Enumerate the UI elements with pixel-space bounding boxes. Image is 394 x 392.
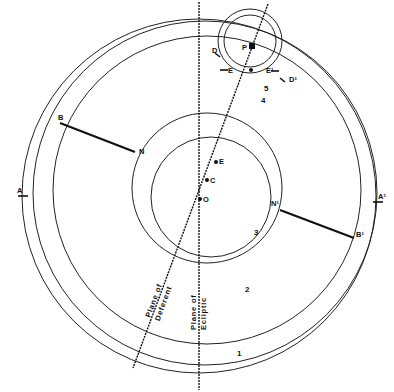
label-p: P — [242, 43, 247, 52]
label-o: O — [203, 195, 209, 204]
point-e-dot — [214, 160, 218, 164]
svg-text:Plane of: Plane of — [189, 294, 198, 330]
n-prime-b-prime-bar — [280, 210, 354, 238]
bn-bar — [60, 123, 135, 152]
region-4: 4 — [261, 96, 266, 105]
epicycle-inner-circle — [224, 15, 276, 67]
label-d: D — [212, 46, 218, 55]
planet-p-marker — [249, 43, 255, 49]
label-c: C — [210, 176, 216, 185]
region-3: 3 — [254, 228, 259, 237]
eccentric-circle — [151, 137, 271, 257]
epicycle-center-dot — [249, 68, 253, 72]
point-c-dot — [205, 178, 209, 182]
label-epicycle-e-prime: E¹ — [266, 66, 274, 75]
inner-sphere-circle — [132, 113, 282, 263]
label-epicycle-e: E — [228, 66, 233, 75]
region-1: 1 — [237, 349, 242, 358]
point-o-dot — [198, 197, 202, 201]
plane-of-deferent-label: Plane of Deferent — [143, 281, 173, 322]
label-b: B — [58, 113, 64, 122]
d-prime-tick — [280, 78, 285, 82]
label-d-prime: D¹ — [289, 75, 297, 84]
label-a-prime: A¹ — [378, 192, 386, 201]
ptolemaic-diagram: A A¹ B B¹ N N¹ E C O P D D¹ E E¹ 1 2 3 4… — [0, 0, 394, 392]
region-2: 2 — [245, 285, 250, 294]
label-n-prime: N¹ — [271, 199, 279, 208]
plane-of-ecliptic-label: Plane of Ecliptic — [189, 294, 208, 330]
label-e: E — [219, 157, 224, 166]
svg-text:Ecliptic: Ecliptic — [199, 297, 208, 330]
epicycle-outer-circle — [218, 9, 282, 73]
region-5: 5 — [264, 84, 269, 93]
label-b-prime: B¹ — [356, 230, 364, 239]
label-a: A — [17, 186, 23, 195]
label-n: N — [139, 147, 144, 156]
